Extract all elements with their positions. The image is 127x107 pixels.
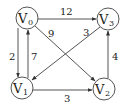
node-v2-label: V: [94, 82, 105, 97]
node-v3-label: V: [98, 12, 109, 27]
node-v2: V 2: [93, 78, 115, 100]
node-v0-sub: 0: [28, 18, 33, 27]
weight-v2-v3: 4: [112, 51, 118, 62]
weight-v1-v0: 7: [31, 51, 37, 62]
node-v1-label: V: [12, 81, 23, 96]
weight-v0-v1: 2: [9, 51, 15, 62]
edge-v3-v1: [32, 27, 100, 80]
node-v1-sub: 1: [23, 88, 28, 97]
weight-v1-v2: 3: [64, 93, 70, 104]
node-v1: V 1: [11, 77, 33, 99]
node-v3-sub: 3: [109, 19, 114, 28]
weight-v3-v1: 3: [83, 27, 89, 38]
node-v0: V 0: [16, 7, 38, 29]
node-v2-sub: 2: [105, 89, 110, 98]
node-v0-label: V: [17, 11, 28, 26]
graph-diagram: 12 2 7 9 3 4 3 V 0 V 1 V 2 V 3: [0, 0, 127, 107]
weight-v0-v2: 9: [48, 28, 54, 39]
node-v3: V 3: [97, 8, 119, 30]
weight-v0-v3: 12: [60, 6, 73, 17]
